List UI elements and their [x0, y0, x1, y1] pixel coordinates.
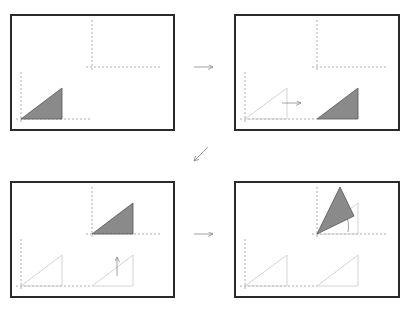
panel-4 [235, 182, 399, 297]
panel-1 [11, 15, 174, 130]
flow-arrow-down-left-icon [194, 147, 208, 161]
panel-2 [235, 15, 399, 130]
panel-frame [11, 182, 174, 297]
panel-3 [11, 182, 174, 297]
transformation-diagram [0, 0, 409, 309]
